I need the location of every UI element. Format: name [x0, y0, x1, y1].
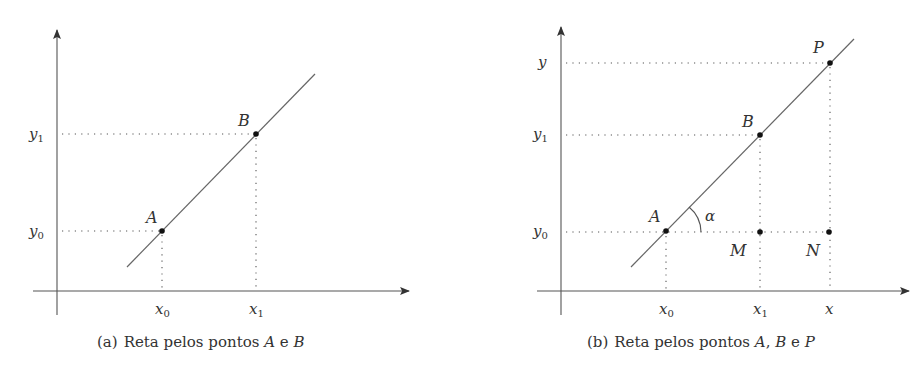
caption-b: (b)Reta pelos pontos A, B e P [587, 333, 816, 351]
label-alpha: α [705, 207, 715, 225]
dotted-guides [566, 63, 830, 291]
tick-y1: y1 [532, 125, 548, 144]
tick-x0: x0 [155, 300, 170, 319]
point-a [159, 228, 165, 234]
label-n: N [805, 241, 821, 260]
point-b [253, 131, 259, 137]
label-a: A [647, 207, 661, 226]
label-a: A [144, 208, 158, 227]
tick-x: x [825, 300, 834, 318]
tick-y: y [537, 53, 547, 71]
tick-y1: y1 [28, 125, 44, 144]
figure-canvas: A B y1 y0 x0 x1 (a)Reta pelos pontos A e… [0, 0, 923, 373]
point-m [757, 229, 763, 235]
angle-alpha-arc [689, 207, 701, 232]
caption-a: (a)Reta pelos pontos A e B [97, 333, 304, 351]
label-p: P [812, 38, 824, 57]
tick-x1: x1 [753, 300, 768, 319]
dotted-guides [62, 134, 256, 291]
label-b: B [237, 111, 250, 130]
point-p [827, 60, 833, 66]
tick-x1: x1 [249, 300, 264, 319]
tick-x0: x0 [659, 300, 674, 319]
point-b [757, 132, 763, 138]
label-m: M [729, 241, 747, 260]
point-n [826, 229, 832, 235]
tick-y0: y0 [532, 222, 548, 241]
point-a [663, 228, 669, 234]
tick-y0: y0 [28, 222, 44, 241]
label-b: B [741, 112, 754, 131]
figure-a: A B y1 y0 x0 x1 (a)Reta pelos pontos A e… [28, 30, 409, 351]
line-ab [127, 74, 315, 267]
figure-b: α A B P M N y y1 y0 x0 x1 x (b)Reta pelo… [532, 27, 909, 351]
